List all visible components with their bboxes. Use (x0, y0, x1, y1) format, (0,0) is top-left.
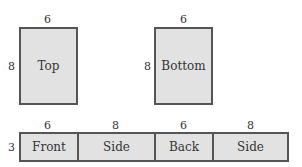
front-width-label: 6 (44, 120, 51, 131)
top-width-label: 6 (44, 14, 51, 25)
top-height-label: 8 (8, 61, 15, 72)
bottom-height-label: 8 (144, 61, 151, 72)
bottom-width-label: 6 (180, 14, 187, 25)
back-width-label: 6 (180, 120, 187, 131)
bottom-face-label: Bottom (161, 59, 205, 73)
side1-width-label: 8 (112, 120, 119, 131)
side-face-2-label: Side (237, 140, 264, 154)
back-face-label: Back (169, 140, 199, 154)
side-face-2: Side (214, 134, 287, 160)
front-face-label: Front (32, 140, 66, 154)
lateral-strip: Front Side Back Side (19, 132, 289, 162)
strip-height-label: 3 (8, 142, 15, 153)
bottom-face: Bottom (154, 27, 213, 105)
top-face: Top (19, 27, 78, 105)
back-face: Back (156, 134, 214, 160)
side-face-1: Side (79, 134, 156, 160)
side2-width-label: 8 (247, 120, 254, 131)
top-face-label: Top (38, 59, 60, 73)
front-face: Front (21, 134, 79, 160)
side-face-1-label: Side (103, 140, 130, 154)
